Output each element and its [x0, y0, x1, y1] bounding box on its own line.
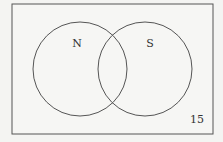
- outside-value: 15: [190, 113, 204, 126]
- set-n-label: N: [72, 37, 82, 50]
- venn-diagram: N S 15: [0, 0, 223, 142]
- universal-set-rectangle: [12, 4, 213, 134]
- set-s-label: S: [146, 37, 154, 50]
